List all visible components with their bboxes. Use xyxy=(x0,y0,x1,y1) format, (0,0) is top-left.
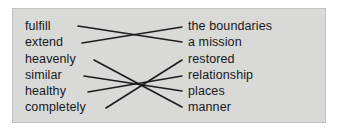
matching-panel: fulfill extend heavenly similar healthy … xyxy=(12,8,326,123)
right-term-manner[interactable]: manner xyxy=(188,101,231,114)
right-term-the-boundaries[interactable]: the boundaries xyxy=(188,20,272,33)
right-term-a-mission[interactable]: a mission xyxy=(188,36,242,49)
left-term-extend[interactable]: extend xyxy=(25,36,63,49)
right-terms-column: the boundaries a mission restored relati… xyxy=(188,8,326,123)
left-term-fulfill[interactable]: fulfill xyxy=(25,20,51,33)
right-term-restored[interactable]: restored xyxy=(188,53,235,66)
right-term-places[interactable]: places xyxy=(188,85,225,98)
matching-exercise: fulfill extend heavenly similar healthy … xyxy=(0,0,343,133)
left-term-similar[interactable]: similar xyxy=(25,69,62,82)
left-terms-column: fulfill extend heavenly similar healthy … xyxy=(12,8,142,123)
right-term-relationship[interactable]: relationship xyxy=(188,69,253,82)
left-term-heavenly[interactable]: heavenly xyxy=(25,53,76,66)
left-term-completely[interactable]: completely xyxy=(25,101,86,114)
left-term-healthy[interactable]: healthy xyxy=(25,85,66,98)
